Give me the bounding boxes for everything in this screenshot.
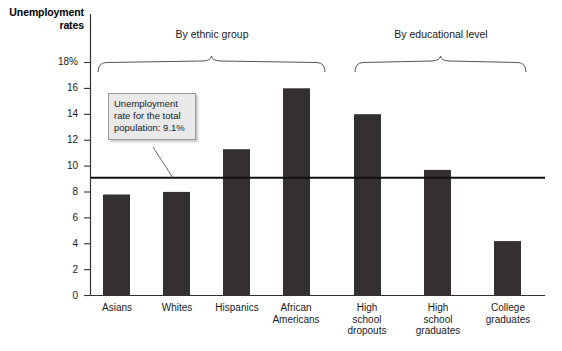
bar-whites	[163, 192, 190, 296]
unemployment-bar-chart: Unemployment rates 18% 16 14 12 10 8 6 4…	[0, 0, 562, 351]
category-label-african-americans-line1: African	[280, 302, 311, 313]
callout-total-population-rate: Unemployment rate for the total populati…	[108, 93, 196, 140]
callout-line3: population: 9.1%	[114, 122, 185, 133]
bar-high-school-graduates	[424, 170, 451, 296]
y-axis-title-line2: rates	[59, 19, 84, 31]
y-tick-label-10: 10	[44, 161, 78, 171]
bar-asians	[103, 195, 130, 296]
y-tick-label-16: 16	[44, 83, 78, 93]
y-tick-label-8: 8	[44, 187, 78, 197]
y-tick-label-0: 0	[44, 291, 78, 301]
category-label-high-school-graduates-line3: graduates	[416, 325, 460, 336]
group-label-ethnic: By ethnic group	[152, 28, 272, 40]
category-label-high-school-dropouts-line2: school	[353, 314, 382, 325]
category-label-high-school-graduates-line2: school	[424, 314, 453, 325]
y-tick-label-18: 18%	[44, 57, 78, 67]
bar-hispanics	[223, 149, 250, 295]
bar-african-americans	[283, 88, 310, 295]
brace-educational-level	[355, 56, 526, 72]
category-label-high-school-graduates: High school graduates	[403, 302, 473, 337]
category-label-hispanics: Hispanics	[206, 302, 268, 314]
category-label-college-graduates: College graduates	[473, 302, 543, 325]
y-tick-label-12: 12	[44, 135, 78, 145]
chart-canvas	[0, 0, 562, 351]
callout-line2: rate for the total	[114, 110, 181, 121]
brace-ethnic-group	[98, 56, 325, 72]
y-tick-label-6: 6	[44, 213, 78, 223]
y-tick-label-4: 4	[44, 239, 78, 249]
callout-line1: Unemployment	[114, 98, 178, 109]
category-label-college-graduates-line1: College	[491, 302, 525, 313]
bar-college-graduates	[494, 241, 521, 295]
category-label-college-graduates-line2: graduates	[486, 314, 530, 325]
category-label-whites: Whites	[146, 302, 208, 314]
group-label-education: By educational level	[378, 28, 504, 40]
category-label-asians: Asians	[86, 302, 148, 314]
category-label-high-school-dropouts-line1: High	[357, 302, 378, 313]
category-label-high-school-graduates-line1: High	[428, 302, 449, 313]
category-label-african-americans-line2: Americans	[272, 314, 319, 325]
category-label-high-school-dropouts-line3: dropouts	[348, 325, 387, 336]
callout-leader-line	[153, 147, 173, 178]
y-tick-label-2: 2	[44, 265, 78, 275]
bar-high-school-dropouts	[354, 114, 381, 295]
y-axis-title: Unemployment rates	[6, 6, 84, 31]
category-label-african-americans: African Americans	[263, 302, 329, 325]
y-axis-ticks	[84, 63, 91, 296]
y-tick-label-14: 14	[44, 109, 78, 119]
category-label-high-school-dropouts: High school dropouts	[334, 302, 400, 337]
y-axis-title-line1: Unemployment	[9, 6, 84, 18]
